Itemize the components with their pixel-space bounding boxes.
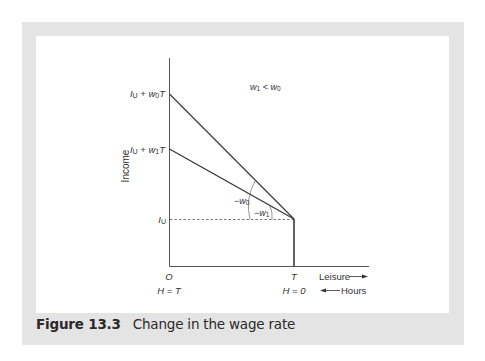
tick-label-origin: O [165,271,173,282]
angle-arc-w1 [270,206,272,220]
tick-label-iu-plus-w1t: IU + w1T [130,144,166,155]
figure-number: Figure 13.3 [36,316,121,332]
figure-title: Change in the wage rate [133,316,295,332]
tick-label-h-equals-0: H = 0 [283,285,307,296]
annotation-w1-lt-w0: w1 < w0 [250,82,281,92]
tick-label-t: T [291,271,298,282]
figure-caption: Figure 13.3Change in the wage rate [36,316,295,338]
x-axis-label-hours: Hours [341,285,367,296]
chart-svg: Income IU + w0T IU + w1T IU w1 < w0 −w0 … [0,0,485,361]
budget-line-w0 [170,94,295,219]
x-axis-label-leisure: Leisure [319,271,350,282]
slope-label-w1: −w1 [254,208,270,218]
tick-label-h-equals-t: H = T [157,285,182,296]
budget-line-w1 [170,149,295,219]
tick-label-iu-plus-w0t: IU + w0T [130,88,166,99]
leisure-arrow-icon [362,275,368,279]
tick-label-iu: IU [158,214,166,225]
slope-label-w0: −w0 [234,196,250,206]
